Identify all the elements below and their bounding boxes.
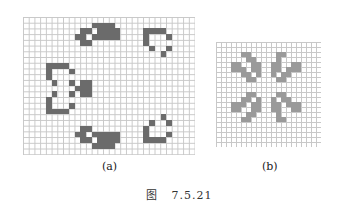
grid-panel-a (23, 17, 195, 155)
live-cell (69, 103, 75, 109)
figure-caption: 图 7.5.21 (146, 186, 212, 202)
live-cell (281, 52, 286, 57)
live-cell (115, 34, 121, 40)
live-cell (286, 72, 291, 77)
live-cell (149, 46, 155, 52)
live-cell (281, 117, 286, 122)
live-cell (246, 117, 251, 122)
live-cell (166, 34, 172, 40)
live-cell (166, 132, 172, 138)
live-cell (161, 51, 167, 57)
live-cell (296, 67, 301, 72)
live-cell (296, 107, 301, 112)
live-cell (166, 46, 172, 52)
live-cell (281, 77, 286, 82)
live-cell (52, 80, 58, 86)
live-cell (52, 91, 58, 97)
live-cell (69, 91, 75, 97)
live-cell (86, 40, 92, 46)
live-cell (69, 69, 75, 75)
live-cell (63, 109, 69, 115)
live-cell (251, 112, 256, 117)
live-cell (109, 143, 115, 149)
live-cell (241, 102, 246, 107)
live-cell (166, 120, 172, 126)
live-cell (149, 120, 155, 126)
panel-b-label: (b) (262, 160, 278, 173)
live-cell (251, 77, 256, 82)
live-cell (256, 72, 261, 77)
live-cell (236, 107, 241, 112)
live-cell (161, 137, 167, 143)
live-cell (86, 91, 92, 97)
panel-a-label: (a) (102, 160, 117, 173)
live-cell (256, 107, 261, 112)
grid-panel-b (216, 42, 321, 147)
live-cell (115, 137, 121, 143)
